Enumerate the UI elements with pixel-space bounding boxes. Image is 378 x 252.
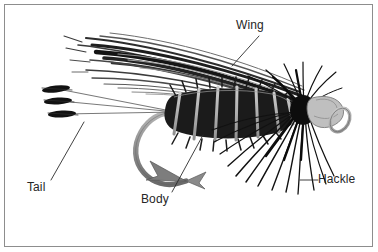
- label-body: Body: [141, 192, 169, 206]
- fishing-fly-illustration: [0, 0, 378, 252]
- figure-root: Wing Tail Body Hackle: [0, 0, 378, 252]
- leader-tail: [51, 122, 84, 180]
- leader-wing: [232, 36, 259, 66]
- label-tail: Tail: [27, 180, 45, 194]
- label-hackle: Hackle: [318, 172, 355, 186]
- label-wing: Wing: [236, 18, 264, 32]
